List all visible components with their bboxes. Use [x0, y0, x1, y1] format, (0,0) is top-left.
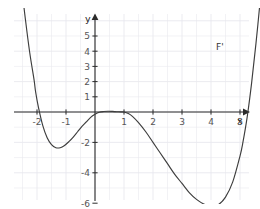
svg-text:5: 5 [84, 31, 90, 41]
svg-text:-1: -1 [62, 117, 71, 127]
svg-text:-2: -2 [33, 117, 42, 127]
svg-text:1: 1 [121, 117, 127, 127]
svg-text:4: 4 [84, 47, 90, 57]
plot-background [0, 0, 260, 209]
svg-text:1: 1 [84, 92, 90, 102]
function-graph-figure: -2-112345-6-4-212345 xyF' x y F' [0, 0, 260, 209]
plot-svg: -2-112345-6-4-212345 xyF' [0, 0, 260, 209]
svg-text:4: 4 [208, 117, 214, 127]
svg-text:3: 3 [179, 117, 185, 127]
svg-text:F': F' [216, 42, 224, 52]
svg-text:-6: -6 [81, 199, 90, 209]
svg-text:-4: -4 [81, 168, 90, 178]
svg-text:3: 3 [84, 62, 90, 72]
svg-text:y: y [85, 13, 91, 24]
svg-text:x: x [237, 115, 243, 126]
svg-text:-2: -2 [81, 138, 90, 148]
svg-text:2: 2 [84, 77, 90, 87]
svg-text:2: 2 [150, 117, 156, 127]
